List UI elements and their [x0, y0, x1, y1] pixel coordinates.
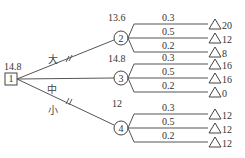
decision-node-1: 1 14.8: [4, 61, 22, 85]
branch-label-large: 大: [48, 53, 58, 65]
svg-text:8: 8: [222, 48, 227, 59]
branch-label-small: 小: [48, 105, 58, 116]
svg-text:0.2: 0.2: [162, 80, 175, 91]
triangle-icon: [209, 59, 221, 69]
svg-text:16: 16: [222, 74, 232, 85]
node-3-value: 14.8: [108, 53, 126, 64]
svg-text:12: 12: [222, 138, 232, 149]
svg-text:20: 20: [222, 20, 232, 31]
node-2-value: 13.6: [108, 12, 126, 23]
triangle-icon: [209, 19, 221, 29]
svg-text:0.3: 0.3: [162, 102, 175, 113]
decision-tree: 1 14.8 大 中 小 13.6 2 0.3 0.5 0.2 20 12 8 …: [0, 0, 245, 158]
svg-text:0.3: 0.3: [162, 52, 175, 63]
triangle-icon: [209, 109, 221, 119]
node-4-value: 12: [112, 98, 122, 109]
chance-node-4: 12 4 0.3 0.5 0.2 12 12 12: [112, 98, 232, 149]
triangle-icon: [209, 33, 221, 43]
svg-text:4: 4: [119, 123, 124, 134]
svg-text:0.3: 0.3: [162, 12, 175, 23]
node-id: 1: [9, 73, 14, 84]
branch-small: [17, 79, 114, 125]
svg-text:12: 12: [222, 124, 232, 135]
branch-medium: [17, 78, 114, 79]
svg-text:12: 12: [222, 110, 232, 121]
svg-text:0.5: 0.5: [162, 26, 175, 37]
triangle-icon: [209, 87, 221, 97]
triangle-icon: [209, 137, 221, 147]
svg-text:0.2: 0.2: [162, 130, 175, 141]
root-value: 14.8: [4, 61, 22, 72]
svg-text:12: 12: [222, 34, 232, 45]
triangle-icon: [209, 123, 221, 133]
prune-mark-small: [66, 98, 72, 105]
svg-text:0.2: 0.2: [162, 40, 175, 51]
svg-text:0: 0: [222, 88, 227, 99]
branch-label-medium: 中: [47, 83, 57, 95]
triangle-icon: [209, 47, 221, 57]
branch-large: [17, 40, 114, 79]
svg-text:2: 2: [119, 33, 124, 44]
triangle-icon: [209, 73, 221, 83]
svg-text:0.5: 0.5: [162, 66, 175, 77]
chance-node-3: 14.8 3 0.3 0.5 0.2 16 16 0: [108, 52, 232, 99]
svg-text:3: 3: [119, 73, 124, 84]
svg-text:16: 16: [222, 60, 232, 71]
svg-text:0.5: 0.5: [162, 116, 175, 127]
